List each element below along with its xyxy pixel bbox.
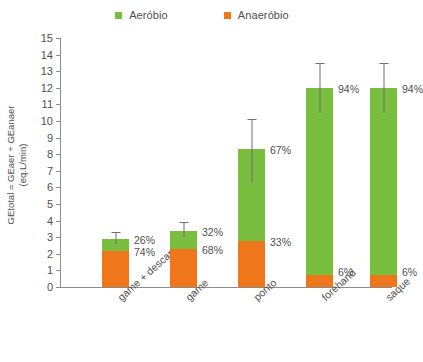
y-axis-tick: [56, 171, 60, 172]
bar-forehand[interactable]: [306, 88, 333, 287]
y-axis-tick-label: 6: [47, 181, 53, 193]
y-axis-tick-label: 10: [41, 115, 53, 127]
y-axis-tick-label: 13: [41, 65, 53, 77]
y-axis-tick: [56, 221, 60, 222]
y-axis-tick: [56, 104, 60, 105]
error-bar-line: [383, 63, 384, 113]
y-axis-tick-label: 5: [47, 198, 53, 210]
y-axis-tick-label: 0: [47, 281, 53, 293]
y-axis-title: GEtotal = GEaer + GEanaer (eq.L/min): [0, 40, 34, 290]
y-axis-title-line2: (eq.L/min): [17, 106, 29, 225]
percent-label-anaerobio: 74%: [134, 246, 155, 258]
percent-label-aerobio: 94%: [338, 83, 359, 95]
legend-label-aerobio: Aeróbio: [129, 9, 168, 21]
bar-saque[interactable]: [370, 88, 397, 287]
legend-label-anaerobio: Anaeróbio: [238, 9, 289, 21]
y-axis-tick-label: 14: [41, 49, 53, 61]
error-bar-cap-upper: [247, 119, 256, 120]
percent-label-anaerobio: 33%: [270, 236, 291, 248]
y-axis-tick: [56, 138, 60, 139]
error-bar-line: [319, 63, 320, 113]
error-bar-cap-upper: [315, 63, 324, 64]
y-axis-tick: [56, 204, 60, 205]
y-axis-tick: [56, 187, 60, 188]
legend-swatch-orange-icon: [224, 12, 231, 19]
bar-segment-anaerobio: [238, 241, 265, 287]
y-axis-tick: [56, 38, 60, 39]
y-axis-tick-label: 3: [47, 231, 53, 243]
error-bar-cap-upper: [111, 232, 120, 233]
percent-label-aerobio: 94%: [402, 83, 423, 95]
bar-segment-aerobio: [370, 88, 397, 275]
error-bar-line: [115, 232, 116, 244]
y-axis-tick-label: 11: [42, 98, 53, 110]
y-axis-tick: [56, 237, 60, 238]
y-axis-title-line1: GEtotal = GEaer + GEanaer: [5, 106, 16, 225]
y-axis-tick: [56, 71, 60, 72]
bar-game[interactable]: [170, 231, 197, 287]
y-axis-tick-label: 8: [47, 148, 53, 160]
percent-label-aerobio: 67%: [270, 144, 291, 156]
y-axis-tick: [56, 121, 60, 122]
percent-label-anaerobio: 68%: [202, 244, 223, 256]
y-axis-tick-label: 7: [47, 165, 53, 177]
percent-label-aerobio: 26%: [134, 234, 155, 246]
error-bar-cap-upper: [179, 222, 188, 223]
y-axis-tick: [56, 287, 60, 288]
y-axis-tick: [56, 270, 60, 271]
error-bar-line: [251, 119, 252, 182]
percent-label-aerobio: 32%: [202, 226, 223, 238]
legend-item-aerobio: Aeróbio: [115, 9, 168, 21]
legend-item-anaerobio: Anaeróbio: [224, 9, 289, 21]
chart-legend: Aeróbio Anaeróbio: [0, 9, 404, 21]
bar-segment-anaerobio: [102, 251, 129, 287]
legend-swatch-green-icon: [115, 12, 122, 19]
y-axis-line: [60, 38, 61, 288]
error-bar-line: [183, 222, 184, 237]
y-axis-tick-label: 2: [47, 248, 53, 260]
bar-segment-anaerobio: [170, 249, 197, 287]
y-axis-tick-label: 4: [47, 215, 53, 227]
y-axis-tick: [56, 88, 60, 89]
bar-segment-aerobio: [306, 88, 333, 275]
bar-game-descanso[interactable]: [102, 239, 129, 287]
y-axis-tick: [56, 55, 60, 56]
plot-area: 012345678910111213141526%74%game + desca…: [60, 38, 392, 288]
y-axis-tick-label: 15: [41, 32, 53, 44]
y-axis-tick: [56, 254, 60, 255]
error-bar-cap-upper: [379, 63, 388, 64]
y-axis-tick-label: 1: [47, 264, 53, 276]
y-axis-tick-label: 9: [47, 132, 53, 144]
y-axis-tick: [56, 154, 60, 155]
y-axis-tick-label: 12: [41, 82, 53, 94]
